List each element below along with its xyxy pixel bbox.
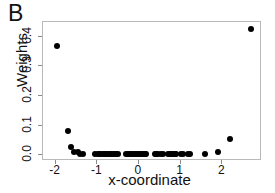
data-point [80, 151, 86, 157]
plot-area [42, 21, 261, 160]
x-tick-label: 2 [218, 164, 225, 177]
x-tick-label: 0 [135, 164, 142, 177]
data-point [143, 151, 149, 157]
y-tick-label: 0.2 [21, 81, 34, 107]
y-tick-label: 0.0 [21, 141, 34, 167]
data-point [115, 151, 121, 157]
y-tick-label: 0.4 [21, 22, 34, 48]
data-point [65, 128, 71, 134]
data-point [54, 43, 60, 49]
x-tick-label: -2 [49, 164, 60, 177]
data-point [248, 26, 254, 32]
y-tick-label: 0.3 [21, 52, 34, 78]
data-point [215, 149, 221, 155]
figure-panel-b: B Weights x-coordinate -2-10120.00.10.20… [0, 0, 275, 193]
y-tick-label: 0.1 [21, 111, 34, 137]
data-point [227, 136, 233, 142]
x-tick-label: -1 [91, 164, 102, 177]
x-tick-label: 1 [176, 164, 183, 177]
data-point [187, 151, 193, 157]
data-point [202, 151, 208, 157]
